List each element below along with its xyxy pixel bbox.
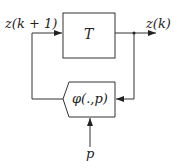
- output-label: z(k): [146, 16, 171, 31]
- parameter-label: p: [86, 146, 94, 161]
- block-diagram: z(k + 1) z(k) T φ(.,p) p: [0, 0, 177, 168]
- input-label: z(k + 1): [5, 16, 57, 31]
- t-block-label: T: [84, 26, 93, 42]
- phi-block-label: φ(.,p): [72, 91, 108, 106]
